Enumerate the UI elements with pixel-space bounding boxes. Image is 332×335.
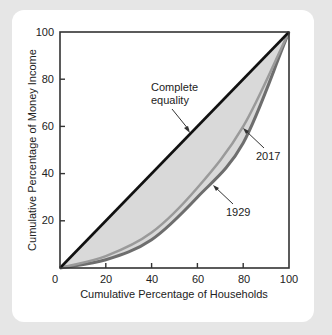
y-tick-label: 20 bbox=[42, 214, 54, 226]
equality-label: equality bbox=[151, 94, 189, 106]
x-tick-label: 40 bbox=[146, 273, 158, 285]
y-axis-title: Cumulative Percentage of Money Income bbox=[26, 49, 38, 251]
arrow-1929 bbox=[215, 187, 233, 204]
x-tick-label: 100 bbox=[280, 273, 298, 285]
x-tick-label: 80 bbox=[238, 273, 250, 285]
x-axis-title: Cumulative Percentage of Households bbox=[80, 288, 268, 300]
y-tick-label: 40 bbox=[42, 167, 54, 179]
x-tick-label: 20 bbox=[100, 273, 112, 285]
arrow-2017 bbox=[245, 130, 264, 148]
equality-label: Complete bbox=[151, 81, 198, 93]
x-tick-label: 0 bbox=[52, 273, 58, 285]
x-tick-label: 60 bbox=[192, 273, 204, 285]
y-tick-label: 100 bbox=[36, 26, 54, 38]
lorenz-curve-chart: 100 80 60 40 20 0 20 40 60 80 100 Cumula… bbox=[0, 0, 332, 335]
y-tick-label: 80 bbox=[42, 73, 54, 85]
label-2017: 2017 bbox=[256, 150, 280, 162]
y-tick-label: 60 bbox=[42, 120, 54, 132]
label-1929: 1929 bbox=[226, 206, 250, 218]
equality-line bbox=[60, 32, 289, 268]
